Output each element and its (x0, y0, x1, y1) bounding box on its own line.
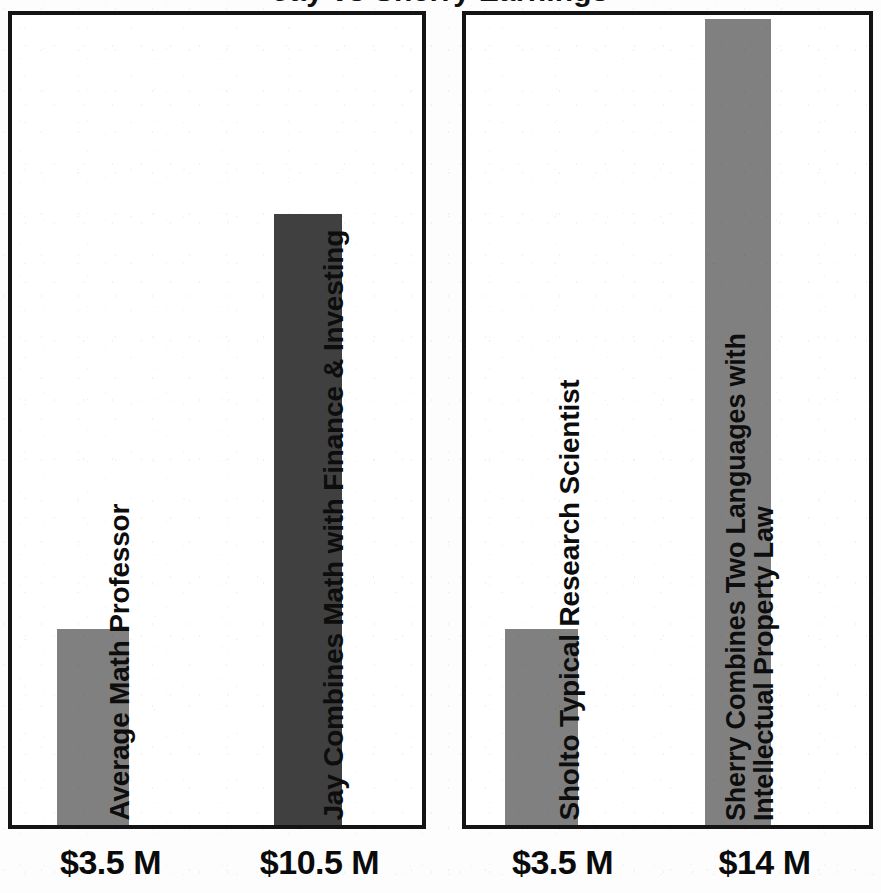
label-average-math-professor: Average Math Professor (106, 504, 135, 821)
label-jay-combines-math-finance-investing: Jay Combines Math with Finance & Investi… (320, 230, 349, 821)
value-label-jay: $10.5 M (222, 843, 417, 882)
value-label-sherry: $14 M (672, 843, 857, 882)
label-sherry-line-2: Intellectual Property Law (748, 506, 778, 821)
value-label-average-math-professor: $3.5 M (18, 843, 203, 882)
label-sholto-typical-research-scientist: Sholto Typical Research Scientist (556, 380, 585, 821)
label-sherry-line-1: Sherry Combines Two Languages with (721, 333, 751, 821)
cropped-title: Jay vs Sherry Earnings (0, 0, 881, 10)
scanned-page: Jay vs Sherry Earnings Average Math Prof… (0, 0, 881, 893)
left-plot-area: Average Math Professor Jay Combines Math… (12, 15, 422, 825)
label-sherry-combines-two-languages-ip-law: Sherry Combines Two Languages with Intel… (723, 41, 778, 821)
right-plot-area: Sholto Typical Research Scientist Sherry… (466, 15, 869, 825)
cropped-title-text: Jay vs Sherry Earnings (0, 0, 881, 8)
right-chart-panel: Sholto Typical Research Scientist Sherry… (462, 11, 873, 829)
left-chart-panel: Average Math Professor Jay Combines Math… (8, 11, 426, 829)
value-label-sholto: $3.5 M (470, 843, 655, 882)
